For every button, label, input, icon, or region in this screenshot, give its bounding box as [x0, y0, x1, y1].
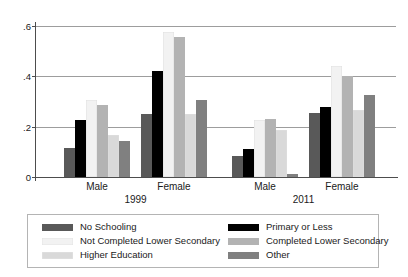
legend-swatch: [228, 252, 259, 259]
x-category-label: Male: [64, 181, 130, 192]
bar: [320, 107, 331, 177]
legend-item: Completed Lower Secondary: [228, 236, 389, 246]
bar: [86, 100, 97, 177]
legend-item: No Schooling: [42, 222, 228, 232]
y-tick-label: .2: [23, 121, 31, 132]
bar-cluster: [64, 26, 130, 177]
bar: [119, 141, 130, 177]
x-category-label: Female: [309, 181, 375, 192]
bar: [196, 100, 207, 177]
bar: [265, 119, 276, 177]
y-tick-mark: [32, 177, 36, 178]
legend: No SchoolingPrimary or LessNot Completed…: [27, 214, 379, 268]
bar: [331, 66, 342, 177]
bar: [364, 95, 375, 177]
bar-cluster: [232, 26, 298, 177]
y-tick-label: .4: [23, 71, 31, 82]
bar: [287, 174, 298, 177]
bar-groups: [36, 26, 396, 177]
plot-region: 0.2.4.6 MaleFemaleMaleFemale19992011: [0, 0, 408, 205]
bar: [163, 32, 174, 177]
bar-cluster: [309, 26, 375, 177]
legend-label: No Schooling: [80, 222, 137, 232]
bar: [152, 71, 163, 177]
legend-label: Completed Lower Secondary: [266, 236, 389, 246]
x-category-label: Male: [232, 181, 298, 192]
legend-swatch: [42, 252, 73, 259]
legend-label: Other: [266, 250, 290, 260]
legend-swatch: [42, 238, 73, 245]
legend-item: Higher Education: [42, 250, 228, 260]
legend-swatch: [42, 224, 73, 231]
bar: [232, 156, 243, 177]
legend-label: Not Completed Lower Secondary: [80, 236, 220, 246]
bar: [243, 149, 254, 177]
legend-item: Not Completed Lower Secondary: [42, 236, 228, 246]
bar: [254, 120, 265, 177]
legend-items: No SchoolingPrimary or LessNot Completed…: [42, 220, 372, 262]
legend-item: Primary or Less: [228, 222, 389, 232]
legend-label: Higher Education: [80, 250, 153, 260]
legend-label: Primary or Less: [266, 222, 333, 232]
x-period-label: 2011: [232, 194, 375, 205]
bar: [64, 148, 75, 177]
bar: [141, 114, 152, 177]
bar: [185, 114, 196, 177]
legend-swatch: [228, 238, 259, 245]
x-category-label: Female: [141, 181, 207, 192]
bar: [97, 105, 108, 177]
bar: [108, 135, 119, 177]
bar-chart: 0.2.4.6 MaleFemaleMaleFemale19992011 No …: [0, 0, 408, 277]
bar: [174, 37, 185, 177]
bar: [75, 120, 86, 177]
bar: [353, 110, 364, 177]
legend-swatch: [228, 224, 259, 231]
y-tick-label: .6: [23, 21, 31, 32]
x-period-label: 1999: [64, 194, 207, 205]
bar: [342, 76, 353, 177]
gridline-0: [36, 177, 396, 178]
bar-cluster: [141, 26, 207, 177]
legend-item: Other: [228, 250, 389, 260]
y-tick-label: 0: [26, 172, 31, 183]
bar: [276, 130, 287, 177]
bar: [309, 113, 320, 177]
